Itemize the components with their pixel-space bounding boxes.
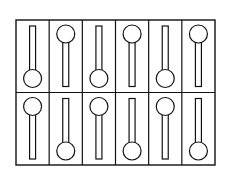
switch-knob-bottom [90,70,108,88]
switch-knob-top [156,98,174,116]
switch-knob-bottom [156,70,174,88]
switch-knob-top [24,98,42,116]
switch-knob-bottom [57,142,75,160]
switch-knob-top [90,98,108,116]
switch-knob-top [57,25,75,43]
switch-knob-bottom [24,70,42,88]
switch-knob-top [189,25,207,43]
switch-knob-bottom [189,142,207,160]
switch-grid-diagram [0,0,228,178]
switch-knob-bottom [123,142,141,160]
switch-knob-top [123,25,141,43]
